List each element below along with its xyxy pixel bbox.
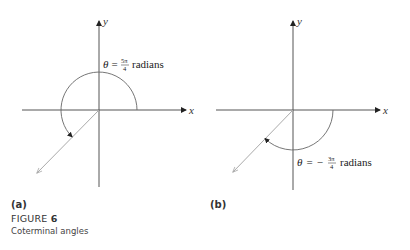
coterminal-angles-figure: x y θ= 5π 4 radians x y θ=− 3π 4 radians [0, 0, 410, 250]
svg-text:3π: 3π [328, 155, 335, 162]
svg-text:4: 4 [123, 65, 127, 72]
angle-label-b: θ=− 3π 4 radians [297, 155, 372, 170]
angle-label-a: θ= 5π 4 radians [103, 57, 164, 72]
svg-text:θ=−: θ=− [297, 156, 323, 168]
figure-title: FIGURE 6 [11, 213, 57, 224]
terminal-ray [233, 110, 293, 172]
panel-label-a: (a) [11, 199, 27, 210]
y-axis-label: y [102, 15, 108, 27]
svg-text:θ=: θ= [103, 58, 118, 70]
svg-text:4: 4 [330, 163, 334, 170]
panel-b-diagram: x y θ=− 3π 4 radians [216, 15, 388, 190]
x-axis-label: x [188, 104, 194, 116]
x-axis-label: x [382, 104, 388, 116]
svg-text:radians: radians [132, 58, 164, 70]
svg-text:radians: radians [340, 156, 372, 168]
figure-number: 6 [51, 213, 58, 224]
figure-caption: Coterminal angles [11, 226, 88, 236]
figure-title-prefix: FIGURE [11, 213, 47, 224]
panel-a-diagram: x y θ= 5π 4 radians [22, 15, 194, 187]
terminal-ray [37, 110, 99, 173]
angle-arc-cw [265, 110, 333, 150]
panel-label-b: (b) [210, 199, 226, 210]
svg-text:5π: 5π [121, 57, 128, 64]
y-axis-label: y [296, 15, 302, 27]
